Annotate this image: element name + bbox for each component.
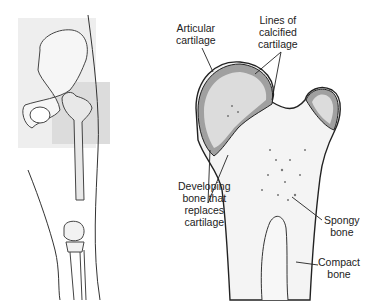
- label-compact-bone: Compact bone: [318, 256, 360, 280]
- label-articular-cartilage: Articular cartilage: [176, 22, 216, 46]
- label-developing-bone: Developing bone that replaces cartilage: [178, 180, 231, 228]
- label-lines-of-calcified-cartilage: Lines of calcified cartilage: [258, 14, 298, 50]
- leg-skeleton-illustration: [18, 15, 110, 300]
- label-spongy-bone: Spongy bone: [324, 214, 360, 238]
